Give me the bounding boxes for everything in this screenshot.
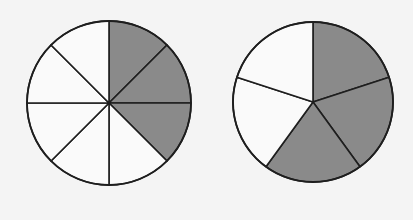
fraction-pies-diagram (0, 0, 413, 220)
right-pie-fifths (233, 22, 393, 182)
left-pie-eighths (27, 21, 191, 185)
